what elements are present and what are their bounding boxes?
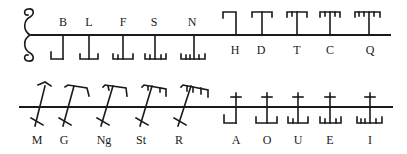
- glyph-c: [320, 12, 340, 35]
- glyph-ng: [97, 85, 127, 126]
- letter-label-ng: Ng: [97, 134, 112, 146]
- glyph-m: [31, 82, 51, 126]
- glyph-q: [355, 12, 380, 35]
- glyph-h: [223, 12, 236, 35]
- glyph-d: [252, 12, 272, 35]
- letter-label-s: S: [151, 16, 158, 28]
- letter-label-b: B: [59, 16, 67, 28]
- letter-label-r: R: [175, 134, 183, 146]
- letter-label-t: T: [293, 44, 300, 56]
- letter-label-i: I: [368, 134, 372, 146]
- letter-label-e: E: [326, 134, 333, 146]
- letter-label-a: A: [232, 134, 241, 146]
- letter-label-n: N: [188, 16, 197, 28]
- glyph-s: [145, 35, 166, 59]
- letter-label-f: F: [120, 16, 127, 28]
- glyph-st: [136, 85, 166, 126]
- letter-label-c: C: [326, 44, 334, 56]
- letter-label-o: O: [263, 134, 272, 146]
- letter-label-q: Q: [366, 44, 375, 56]
- glyph-r: [174, 85, 208, 126]
- letter-label-m: M: [32, 134, 43, 146]
- letter-label-d: D: [257, 44, 266, 56]
- glyph-t: [287, 12, 307, 35]
- letter-label-st: St: [136, 134, 146, 146]
- glyph-l: [80, 35, 98, 59]
- letter-label-u: U: [294, 134, 303, 146]
- letter-label-g: G: [60, 134, 69, 146]
- glyph-n: [181, 35, 205, 59]
- glyph-g: [59, 85, 89, 126]
- glyph-b: [51, 35, 63, 59]
- glyph-f: [113, 35, 133, 59]
- letter-label-h: H: [231, 44, 240, 56]
- letter-label-l: L: [85, 16, 92, 28]
